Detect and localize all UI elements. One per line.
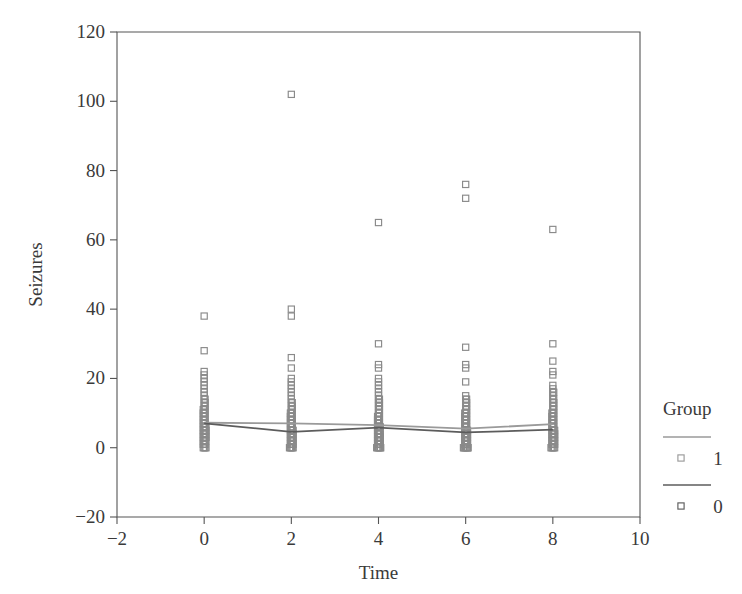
- y-tick-label-80: 80: [86, 160, 105, 181]
- plot-canvas: −20020406080100120−20246810TimeSeizuresG…: [0, 0, 742, 594]
- x-axis-title: Time: [359, 562, 398, 583]
- data-point-marker: [288, 306, 294, 312]
- data-point-marker: [375, 219, 381, 225]
- scatter-plot-figure: −20020406080100120−20246810TimeSeizuresG…: [0, 0, 742, 594]
- y-tick-label-20: 20: [86, 367, 105, 388]
- y-tick-label-100: 100: [77, 90, 106, 111]
- y-tick-label-40: 40: [86, 298, 105, 319]
- y-axis-title: Seizures: [25, 242, 46, 306]
- x-tick-label-4: 4: [374, 528, 384, 549]
- data-point-marker: [288, 91, 294, 97]
- data-point-marker: [550, 226, 556, 232]
- x-tick-label-10: 10: [631, 528, 650, 549]
- x-tick-label-6: 6: [461, 528, 471, 549]
- data-point-marker: [288, 355, 294, 361]
- x-tick-label--2: −2: [107, 528, 127, 549]
- data-point-marker: [463, 379, 469, 385]
- data-point-marker: [201, 348, 207, 354]
- legend-label-group-0: 0: [713, 496, 723, 517]
- legend-marker-group-1: [678, 455, 684, 461]
- y-tick-label--20: −20: [75, 506, 105, 527]
- data-point-marker: [463, 195, 469, 201]
- x-tick-label-2: 2: [287, 528, 297, 549]
- legend-label-group-1: 1: [713, 448, 723, 469]
- legend-marker-group-0: [678, 503, 684, 509]
- data-point-marker: [550, 341, 556, 347]
- y-tick-label-0: 0: [96, 437, 106, 458]
- y-tick-label-60: 60: [86, 229, 105, 250]
- x-tick-label-0: 0: [199, 528, 209, 549]
- data-point-marker: [463, 344, 469, 350]
- data-point-marker: [463, 181, 469, 187]
- data-point-marker: [201, 313, 207, 319]
- data-point-marker: [375, 341, 381, 347]
- legend-title: Group: [663, 398, 712, 419]
- data-point-marker: [288, 313, 294, 319]
- x-tick-label-8: 8: [548, 528, 558, 549]
- y-tick-label-120: 120: [77, 21, 106, 42]
- data-point-marker: [550, 358, 556, 364]
- data-point-marker: [288, 365, 294, 371]
